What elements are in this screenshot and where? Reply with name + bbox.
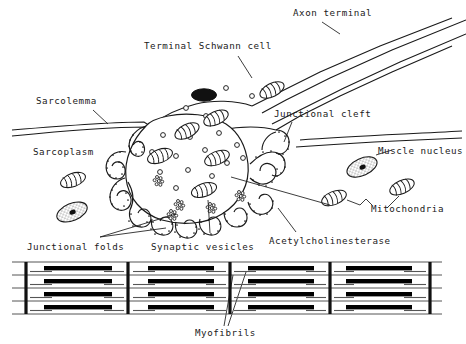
- label-sarcoplasm: Sarcoplasm: [33, 147, 94, 156]
- myofibril-band: [12, 262, 442, 314]
- leader-mitochondria-long: [231, 177, 330, 205]
- label-axon-terminal: Axon terminal: [293, 8, 372, 17]
- leader-junctional-folds-a: [100, 214, 176, 237]
- label-sarcolemma: Sarcolemma: [36, 96, 97, 105]
- leader-schwann-cell: [238, 56, 252, 78]
- leader-acetylcholinesterase: [278, 208, 296, 232]
- label-terminal-schwann-cell: Terminal Schwann cell: [144, 41, 272, 50]
- label-acetylcholinesterase: Acetylcholinesterase: [269, 236, 391, 245]
- label-junctional-folds: Junctional folds: [27, 242, 124, 251]
- leader-axon-terminal: [322, 22, 340, 34]
- label-myofibrils: Myofibrils: [195, 328, 256, 337]
- label-synaptic-vesicles: Synaptic vesicles: [151, 242, 254, 251]
- leader-sarcolemma: [93, 110, 108, 124]
- neuromuscular-junction-figure: Axon terminal Terminal Schwann cell Sarc…: [0, 0, 466, 344]
- diagram-canvas: [0, 0, 466, 344]
- label-mitochondria: Mitochondria: [371, 204, 444, 213]
- label-muscle-nucleus: Muscle nucleus: [378, 146, 463, 155]
- schwann-cell-nucleus: [192, 89, 217, 101]
- leader-mitochondria-left: [347, 199, 372, 205]
- label-junctional-cleft: Junctional cleft: [274, 109, 371, 118]
